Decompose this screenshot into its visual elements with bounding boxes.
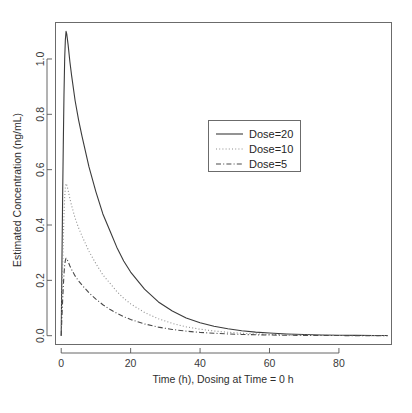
- chart-legend: Dose=20Dose=10Dose=5: [209, 121, 301, 172]
- y-tick-label: 0.6: [34, 162, 46, 177]
- x-axis-title: Time (h), Dosing at Time = 0 h: [152, 373, 293, 385]
- chart-background: [0, 0, 412, 413]
- pk-concentration-time-chart: 020406080 0.00.20.40.60.81.0 Dose=20Dose…: [0, 0, 412, 413]
- legend-label-1: Dose=20: [249, 128, 293, 140]
- y-tick-label: 0.8: [34, 107, 46, 122]
- x-tick-label: 80: [333, 357, 345, 369]
- y-tick-label: 0.2: [34, 273, 46, 288]
- y-axis-title: Estimated Concentration (ng/mL): [11, 113, 23, 267]
- x-tick-label: 40: [194, 357, 206, 369]
- y-tick-label: 1.0: [34, 52, 46, 67]
- x-tick-label: 20: [125, 357, 137, 369]
- legend-label-2: Dose=10: [249, 143, 293, 155]
- x-tick-label: 60: [264, 357, 276, 369]
- y-tick-label: 0.4: [34, 218, 46, 233]
- y-tick-label: 0.0: [34, 328, 46, 343]
- chart-canvas: 020406080 0.00.20.40.60.81.0 Dose=20Dose…: [0, 0, 412, 413]
- legend-label-3: Dose=5: [249, 158, 287, 170]
- x-tick-label: 0: [58, 357, 64, 369]
